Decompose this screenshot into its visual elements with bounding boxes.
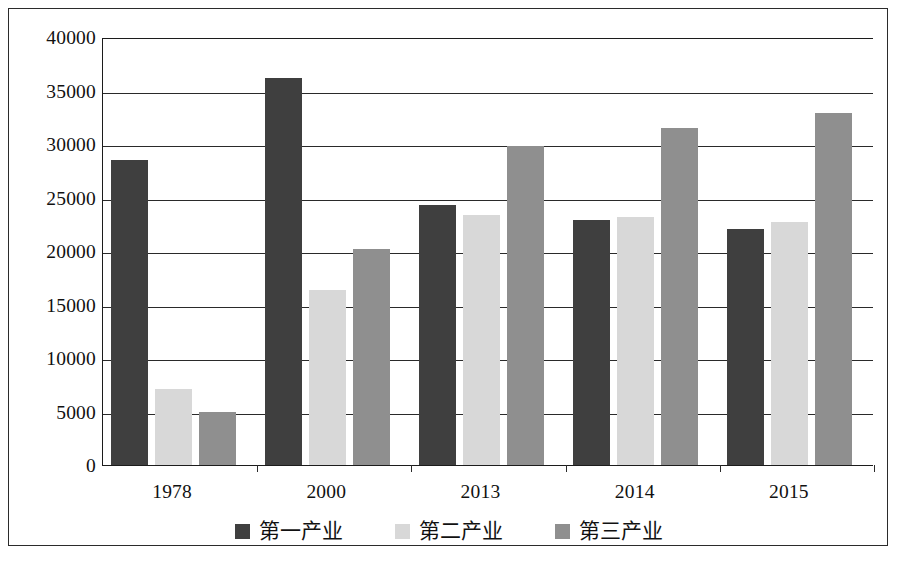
bar[interactable] — [661, 128, 698, 465]
legend-item[interactable]: 第三产业 — [555, 521, 663, 542]
bar[interactable] — [507, 146, 544, 465]
y-axis-tick-label: 0 — [10, 456, 96, 476]
bar-group — [573, 39, 698, 465]
bar[interactable] — [199, 412, 236, 466]
chart-legend: 第一产业第二产业第三产业 — [9, 521, 889, 542]
y-axis-tick-label: 25000 — [10, 189, 96, 209]
x-axis-tick-mark — [566, 465, 567, 472]
x-axis-tick-label: 2014 — [615, 481, 655, 503]
bar[interactable] — [309, 290, 346, 465]
legend-item[interactable]: 第二产业 — [395, 521, 503, 542]
y-axis-tick-label: 35000 — [10, 82, 96, 102]
x-axis-tick-mark — [720, 465, 721, 472]
legend-item[interactable]: 第一产业 — [235, 521, 343, 542]
bar[interactable] — [419, 205, 456, 465]
bars-layer — [103, 39, 873, 465]
bar-group — [265, 39, 390, 465]
y-axis-tick-label: 20000 — [10, 242, 96, 262]
legend-swatch-icon — [235, 524, 250, 539]
bar[interactable] — [111, 160, 148, 465]
bar[interactable] — [727, 229, 764, 465]
bar[interactable] — [573, 220, 610, 465]
bar-group — [727, 39, 852, 465]
bar-group — [419, 39, 544, 465]
legend-label: 第一产业 — [259, 521, 343, 542]
y-axis-tick-labels: 0500010000150002000025000300003500040000 — [9, 38, 96, 466]
legend-swatch-icon — [555, 524, 570, 539]
legend-label: 第二产业 — [419, 521, 503, 542]
y-axis-tick-label: 40000 — [10, 28, 96, 48]
x-axis-tick-mark — [874, 465, 875, 472]
y-axis-tick-label: 30000 — [10, 135, 96, 155]
bar-group — [111, 39, 236, 465]
legend-swatch-icon — [395, 524, 410, 539]
y-axis-tick-label: 10000 — [10, 349, 96, 369]
chart-figure: 0500010000150002000025000300003500040000… — [8, 8, 888, 546]
bar[interactable] — [617, 217, 654, 465]
bar[interactable] — [771, 222, 808, 465]
x-axis-tick-label: 2015 — [769, 481, 809, 503]
bar[interactable] — [815, 113, 852, 465]
bar[interactable] — [353, 249, 390, 465]
x-axis-tick-mark — [257, 465, 258, 472]
x-axis-tick-mark — [411, 465, 412, 472]
x-axis-tick-label: 2000 — [306, 481, 346, 503]
bar[interactable] — [463, 215, 500, 465]
x-axis-tick-labels: 19782000201320142015 — [102, 481, 873, 511]
x-axis-tick-label: 1978 — [152, 481, 192, 503]
y-axis-tick-label: 15000 — [10, 296, 96, 316]
legend-label: 第三产业 — [579, 521, 663, 542]
bar[interactable] — [155, 389, 192, 466]
y-axis-tick-label: 5000 — [10, 403, 96, 423]
bar[interactable] — [265, 78, 302, 465]
x-axis-tick-label: 2013 — [461, 481, 501, 503]
plot-area — [102, 38, 873, 466]
